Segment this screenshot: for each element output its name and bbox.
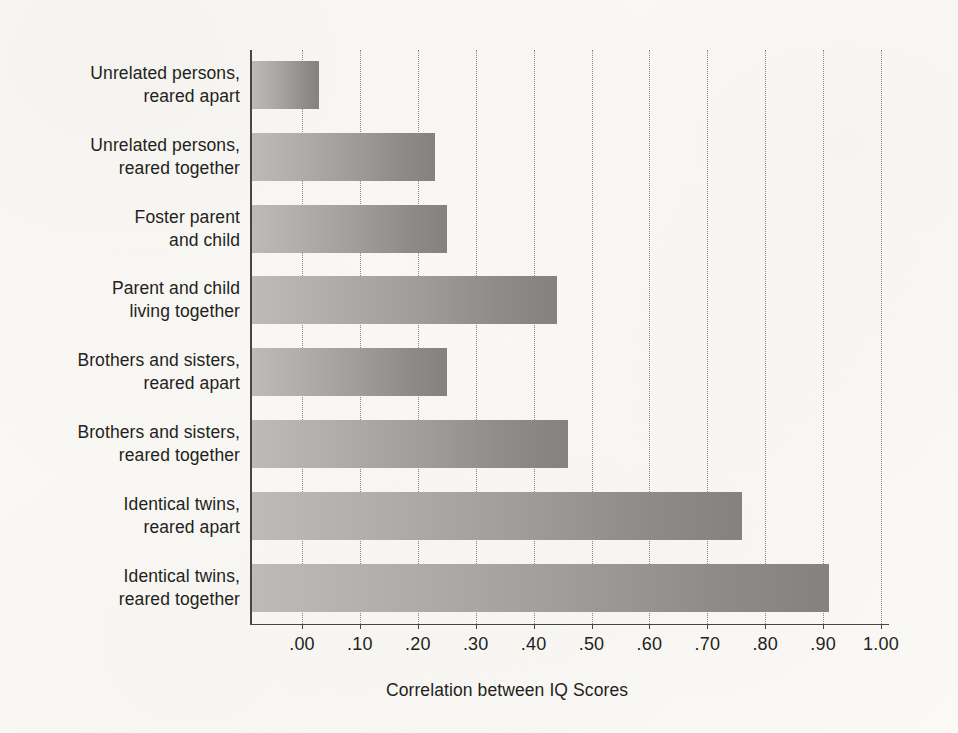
x-axis-title: Correlation between IQ Scores [0,680,958,701]
x-tick-label: 1.00 [863,634,899,655]
category-label: Identical twins, reared apart [124,493,240,539]
x-tick-label: .30 [463,634,489,655]
bar-row [252,492,742,540]
bar-3 [252,276,557,324]
x-tick-label: .70 [694,634,720,655]
bar-7 [252,564,829,612]
bar-5 [252,420,568,468]
bar-row [252,348,447,396]
bar-6 [252,492,742,540]
bar-2 [252,205,447,253]
bar-row [252,133,435,181]
x-tick-label: .90 [810,634,836,655]
x-axis-line [250,624,889,625]
iq-correlation-bar-chart: Unrelated persons, reared apartUnrelated… [0,0,958,733]
x-tick-label: .20 [405,634,431,655]
x-tick-label: .60 [637,634,663,655]
bar-row [252,205,447,253]
category-label: Foster parent and child [135,206,240,252]
x-tick-label: .00 [289,634,315,655]
bars-layer [252,50,952,624]
bar-row [252,276,557,324]
bar-row [252,420,568,468]
bar-row [252,61,319,109]
category-label: Identical twins, reared together [119,565,240,611]
bar-4 [252,348,447,396]
bar-1 [252,133,435,181]
category-label: Unrelated persons, reared apart [90,62,240,108]
category-label: Unrelated persons, reared together [90,134,240,180]
x-tick-label: .50 [579,634,605,655]
category-label: Brothers and sisters, reared together [77,421,240,467]
category-label: Parent and child living together [112,277,240,323]
bar-0 [252,61,319,109]
category-label: Brothers and sisters, reared apart [77,349,240,395]
bar-row [252,564,829,612]
x-tick-label: .10 [347,634,373,655]
x-tick-label: .40 [521,634,547,655]
x-axis-title-text: Correlation between IQ Scores [330,680,628,700]
x-tick-label: .80 [752,634,778,655]
